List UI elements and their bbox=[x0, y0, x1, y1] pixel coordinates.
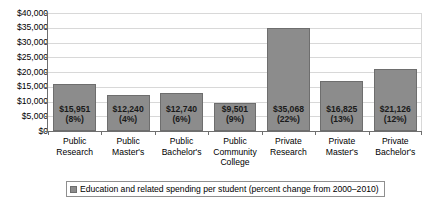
y-axis-tick-label: $40,000 bbox=[2, 9, 48, 18]
x-axis-category-line: Public bbox=[208, 136, 261, 147]
x-axis-category-label: PublicBachelor's bbox=[155, 136, 208, 157]
x-axis-category-label: PublicResearch bbox=[48, 136, 101, 157]
bar-group: $21,126(12%) bbox=[374, 13, 417, 131]
bar-group: $16,825(13%) bbox=[320, 13, 363, 131]
y-axis-tick-label: $5,000 bbox=[2, 112, 48, 121]
bar-percent-label: (6%) bbox=[160, 115, 203, 125]
bar-group: $9,501(9%) bbox=[214, 13, 257, 131]
bar-label: $9,501(9%) bbox=[214, 105, 257, 124]
x-axis-tick-mark bbox=[315, 131, 316, 135]
bar-label: $12,740(6%) bbox=[160, 105, 203, 124]
bar-value-label: $35,068 bbox=[273, 104, 304, 114]
x-axis-tick-mark bbox=[155, 131, 156, 135]
x-axis-tick-mark bbox=[369, 131, 370, 135]
bar-group: $15,951(8%) bbox=[53, 13, 96, 131]
bar-label: $35,068(22%) bbox=[267, 105, 310, 124]
bar-value-label: $12,740 bbox=[166, 104, 197, 114]
bar-group: $12,240(4%) bbox=[107, 13, 150, 131]
y-axis-tick-label: $10,000 bbox=[2, 97, 48, 106]
bar-percent-label: (13%) bbox=[320, 115, 363, 125]
x-axis-category-label: PublicCommunityCollege bbox=[208, 136, 261, 168]
bar-label: $21,126(12%) bbox=[374, 105, 417, 124]
y-axis-tick-label: $25,000 bbox=[2, 53, 48, 62]
x-axis-tick-mark bbox=[262, 131, 263, 135]
x-axis-category-line: Research bbox=[262, 147, 315, 158]
bar-label: $12,240(4%) bbox=[107, 105, 150, 124]
x-axis-category-line: Master's bbox=[315, 147, 368, 158]
x-axis-category-label: PrivateBachelor's bbox=[369, 136, 422, 157]
x-axis-tick-mark bbox=[48, 131, 49, 135]
bar-percent-label: (8%) bbox=[53, 115, 96, 125]
bar-percent-label: (4%) bbox=[107, 115, 150, 125]
y-axis: $40,000$35,000$30,000$25,000$20,000$15,0… bbox=[0, 0, 48, 205]
bar-group: $12,740(6%) bbox=[160, 13, 203, 131]
x-axis-category-line: Bachelor's bbox=[369, 147, 422, 158]
bar-value-label: $16,825 bbox=[326, 104, 357, 114]
x-axis-category-line: Research bbox=[48, 147, 101, 158]
x-axis-category-line: Private bbox=[369, 136, 422, 147]
x-axis-category-line: Public bbox=[101, 136, 154, 147]
legend-swatch-icon bbox=[70, 186, 77, 193]
y-axis-tick-label: $35,000 bbox=[2, 23, 48, 32]
x-axis-category-line: Public bbox=[48, 136, 101, 147]
x-axis-category-line: Bachelor's bbox=[155, 147, 208, 158]
legend-label: Education and related spending per stude… bbox=[80, 184, 379, 194]
x-axis-category-line: Private bbox=[262, 136, 315, 147]
x-axis-category-label: PrivateMaster's bbox=[315, 136, 368, 157]
x-axis-category-line: Private bbox=[315, 136, 368, 147]
bar-percent-label: (22%) bbox=[267, 115, 310, 125]
bar-chart: $40,000$35,000$30,000$25,000$20,000$15,0… bbox=[0, 0, 430, 205]
x-axis-category-label: PublicMaster's bbox=[101, 136, 154, 157]
bars-container: $15,951(8%)$12,240(4%)$12,740(6%)$9,501(… bbox=[48, 13, 422, 131]
bar-label: $15,951(8%) bbox=[53, 105, 96, 124]
x-axis-tick-mark bbox=[101, 131, 102, 135]
bar-percent-label: (12%) bbox=[374, 115, 417, 125]
bar-label: $16,825(13%) bbox=[320, 105, 363, 124]
bar-value-label: $9,501 bbox=[222, 104, 248, 114]
x-axis-category-line: Public bbox=[155, 136, 208, 147]
chart-legend: Education and related spending per stude… bbox=[66, 181, 385, 197]
bar-percent-label: (9%) bbox=[214, 115, 257, 125]
x-axis-tick-mark bbox=[421, 131, 422, 135]
x-axis-category-line: College bbox=[208, 157, 261, 168]
bar-group: $35,068(22%) bbox=[267, 13, 310, 131]
y-axis-tick-label: $0 bbox=[2, 127, 48, 136]
y-axis-tick-label: $20,000 bbox=[2, 68, 48, 77]
x-axis-category-line: Master's bbox=[101, 147, 154, 158]
bar-value-label: $12,240 bbox=[113, 104, 144, 114]
bar-value-label: $21,126 bbox=[380, 104, 411, 114]
x-axis-tick-mark bbox=[208, 131, 209, 135]
x-axis-category-line: Community bbox=[208, 147, 261, 158]
bar-value-label: $15,951 bbox=[59, 104, 90, 114]
y-axis-tick-label: $15,000 bbox=[2, 82, 48, 91]
x-axis-category-label: PrivateResearch bbox=[262, 136, 315, 157]
x-axis-labels: PublicResearchPublicMaster'sPublicBachel… bbox=[48, 136, 422, 172]
y-axis-tick-label: $30,000 bbox=[2, 38, 48, 47]
